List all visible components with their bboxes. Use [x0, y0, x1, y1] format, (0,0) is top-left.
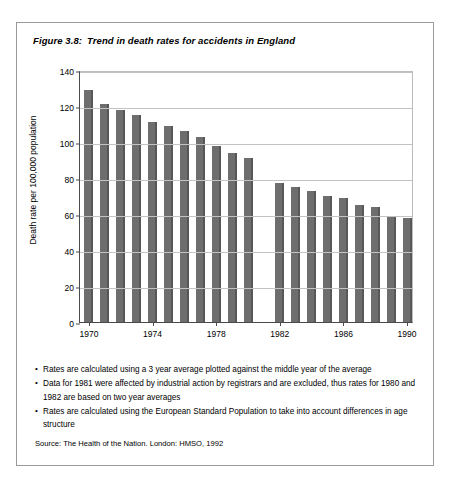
x-tick-mark — [407, 322, 408, 326]
source-line: Source: The Health of the Nation. London… — [35, 439, 421, 448]
gridline — [80, 216, 412, 217]
bar-1975 — [164, 126, 173, 322]
x-tick-mark — [280, 322, 281, 326]
gridline — [80, 252, 412, 253]
bar-1971 — [100, 104, 109, 322]
figure-title: Figure 3.8:Trend in death rates for acci… — [33, 35, 295, 46]
gridline — [80, 108, 412, 109]
bar-1980 — [244, 158, 253, 322]
x-tick-mark — [343, 322, 344, 326]
bar-1987 — [355, 205, 364, 322]
bar-1978 — [212, 146, 221, 322]
bar-1989 — [387, 216, 396, 322]
y-tick-mark — [76, 288, 80, 289]
bar-1973 — [132, 115, 141, 322]
bar-1984 — [307, 191, 316, 322]
x-tick-label: 1982 — [270, 329, 289, 339]
figure-card: Figure 3.8:Trend in death rates for acci… — [16, 22, 434, 466]
x-tick-label: 1978 — [207, 329, 226, 339]
x-tick-label: 1986 — [334, 329, 353, 339]
y-tick-label: 80 — [65, 175, 74, 185]
bar-1990 — [403, 218, 412, 322]
figure-title-text: Trend in death rates for accidents in En… — [87, 35, 295, 46]
gridline — [80, 180, 412, 181]
bar-1985 — [323, 196, 332, 322]
bar-1977 — [196, 137, 205, 322]
gridline — [80, 144, 412, 145]
y-tick-mark — [76, 216, 80, 217]
bar-1979 — [228, 153, 237, 322]
x-tick-mark — [153, 322, 154, 326]
y-tick-label: 100 — [60, 139, 74, 149]
chart: Death rate per 100,000 population 020406… — [17, 57, 435, 357]
x-tick-mark — [89, 322, 90, 326]
gridline — [80, 288, 412, 289]
notes-list: Rates are calculated using a 3 year aver… — [35, 363, 421, 432]
bar-series — [80, 72, 412, 322]
plot-area: 0204060801001201401970197419781982198619… — [79, 71, 413, 323]
y-tick-label: 120 — [60, 103, 74, 113]
y-tick-mark — [76, 324, 80, 325]
y-tick-mark — [76, 72, 80, 73]
bar-1976 — [180, 131, 189, 322]
note-item-3: Rates are calculated using the European … — [35, 405, 421, 432]
bar-1974 — [148, 122, 157, 322]
y-tick-label: 60 — [65, 211, 74, 221]
note-item-2: Data for 1981 were affected by industria… — [35, 377, 421, 404]
y-tick-mark — [76, 252, 80, 253]
y-tick-label: 40 — [65, 247, 74, 257]
y-tick-label: 20 — [65, 283, 74, 293]
x-tick-mark — [216, 322, 217, 326]
bar-1988 — [371, 207, 380, 322]
y-tick-mark — [76, 108, 80, 109]
y-tick-label: 0 — [69, 319, 74, 329]
x-tick-label: 1974 — [143, 329, 162, 339]
y-tick-mark — [76, 180, 80, 181]
y-axis-title: Death rate per 100,000 population — [28, 90, 38, 270]
y-tick-label: 140 — [60, 67, 74, 77]
y-tick-mark — [76, 144, 80, 145]
x-tick-label: 1990 — [398, 329, 417, 339]
note-item-1: Rates are calculated using a 3 year aver… — [35, 363, 421, 376]
figure-number: Figure 3.8: — [33, 35, 87, 46]
gridline — [80, 72, 412, 73]
bar-1983 — [291, 187, 300, 322]
x-tick-label: 1970 — [79, 329, 98, 339]
